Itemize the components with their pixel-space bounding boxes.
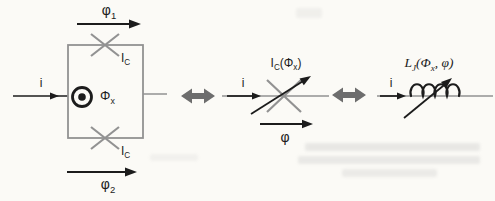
inductor-current-text: i: [390, 76, 393, 90]
phase-bottom-arrowhead: [125, 168, 137, 177]
scan-bleedthrough-mark: [296, 8, 322, 18]
scan-bleedthrough-line: [342, 169, 437, 177]
effective-phase-label: φ: [280, 130, 289, 144]
external-flux-label: Φx: [100, 89, 115, 105]
ic-bottom-sub: C: [124, 151, 130, 160]
input-current-text: i: [40, 76, 43, 90]
flux-base: Φ: [100, 88, 110, 103]
phase-top-base: φ: [102, 2, 111, 18]
effective-junction-current-label: i: [242, 77, 245, 89]
inductor-current-arrowhead: [397, 93, 406, 100]
inductor-coil-icon: [411, 84, 460, 96]
junction-bottom-critical-current-label: IC: [121, 145, 130, 161]
phase-bottom-label: φ2: [101, 177, 115, 194]
flux-sub: x: [110, 96, 114, 106]
lj-close: , φ): [435, 55, 454, 70]
icphix-open: (Φ: [280, 56, 294, 70]
input-current-arrowhead: [50, 93, 59, 100]
icphix-close: ): [297, 56, 301, 70]
squid-equivalence-figure: i φ1 φ2 IC IC Φx i IC(Φx) φ i LJ(Φx, φ): [0, 0, 495, 201]
inductor-current-label: i: [390, 77, 393, 89]
scan-bleedthrough-mark: [150, 154, 198, 161]
ic-top-sub: C: [124, 58, 130, 67]
phase-top-label: φ1: [102, 3, 116, 20]
lj-pre: L: [404, 55, 412, 70]
effective-phase-text: φ: [280, 129, 289, 145]
equivalence-double-arrow-icon: [181, 89, 215, 104]
junction-top-critical-current-label: IC: [121, 52, 130, 68]
phase-top-arrowhead: [129, 20, 141, 29]
effective-junction-tunability-arrowhead: [300, 73, 314, 86]
scan-bleedthrough-line: [298, 156, 480, 164]
josephson-inductance-label: LJ(Φx, φ): [404, 56, 453, 73]
effective-current-text: i: [242, 76, 245, 90]
scan-bleedthrough-line: [305, 143, 480, 151]
flux-out-of-page-dot-icon: [78, 93, 86, 101]
phase-top-sub: 1: [111, 10, 116, 21]
effective-junction-current-arrowhead: [252, 93, 261, 100]
effective-junction-tunability-arrow: [251, 81, 304, 115]
phase-bottom-sub: 2: [110, 184, 115, 195]
equivalence-double-arrow-icon: [332, 88, 366, 103]
effective-critical-current-label: IC(Φx): [271, 57, 302, 73]
input-current-label: i: [40, 77, 43, 89]
phase-bottom-base: φ: [101, 176, 110, 192]
effective-phase-arrowhead: [302, 120, 313, 128]
lj-open: (Φ: [416, 55, 431, 70]
